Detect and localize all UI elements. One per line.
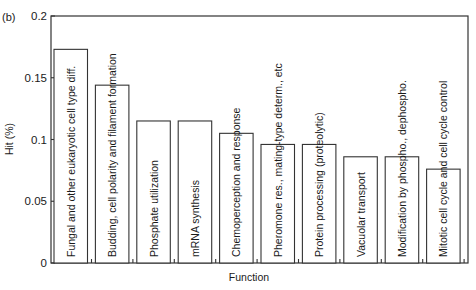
bar-category-label: Modification by phospho., dephospho. — [396, 80, 408, 257]
bar-category-label: Phosphate utilization — [148, 160, 160, 257]
y-axis-label: Hit (%) — [3, 123, 15, 155]
x-axis-label: Function — [229, 271, 269, 283]
bar-chart: (b) 00.050.10.150.2 Fungal and other euk… — [0, 0, 476, 290]
bar-category-label: mRNA synthesis — [189, 180, 201, 257]
panel-label: (b) — [2, 11, 15, 23]
bar-category-label: Protein processing (proteolytic) — [313, 112, 325, 257]
bar-category-label: Chemoperception and response — [230, 107, 242, 257]
y-tick-label: 0.2 — [31, 10, 47, 22]
y-tick-label: 0.15 — [25, 72, 47, 84]
y-tick-label: 0.1 — [31, 134, 47, 146]
bar-category-label: Vacuolar transport — [355, 172, 367, 257]
bar-category-label: Fungal and other eukaryotic cell type di… — [65, 66, 77, 257]
bar-category-label: Budding, cell polarity and filament form… — [106, 53, 118, 257]
bar-category-label: Mitotic cell cycle and cell cycle contro… — [437, 81, 449, 257]
y-tick-label: 0.05 — [25, 195, 47, 207]
bar-category-label: Pheromone res., mating-type determ., etc — [272, 63, 284, 257]
y-tick-label: 0 — [41, 257, 47, 269]
